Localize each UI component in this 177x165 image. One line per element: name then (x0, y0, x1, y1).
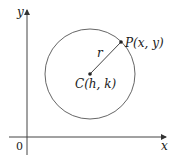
point-p-label: P(x, y) (124, 36, 164, 50)
diagram-canvas: y x 0 r P(x, y) C(h, k) (0, 0, 177, 165)
radius-line (90, 42, 121, 74)
center-label: C(h, k) (75, 77, 116, 91)
point-p (119, 40, 123, 44)
center-point (88, 72, 92, 76)
y-axis-label: y (16, 5, 24, 19)
x-axis-label: x (161, 139, 168, 153)
radius-label: r (97, 46, 104, 60)
origin-label: 0 (16, 140, 23, 153)
